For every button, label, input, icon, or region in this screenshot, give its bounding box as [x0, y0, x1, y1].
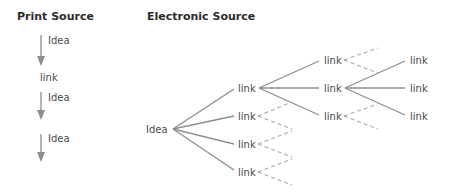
tree-root-idea: Idea — [146, 124, 168, 135]
arrow-down-icon — [37, 56, 45, 66]
arrow-down-icon — [37, 152, 45, 162]
dashed-branch — [344, 60, 378, 73]
print-idea-1: Idea — [48, 35, 70, 46]
tree-link-l1-4: link — [238, 167, 256, 178]
diagram-canvas: Idea link Idea Idea Idea link link link … — [0, 0, 449, 196]
edge-root-l1d — [173, 129, 234, 170]
tree-link-l3-2: link — [410, 83, 428, 94]
print-idea-3: Idea — [48, 133, 70, 144]
dashed-branch — [344, 116, 378, 129]
dashed-branch — [344, 104, 378, 116]
electronic-source-tree: Idea link link link link link link link — [146, 48, 428, 185]
tree-link-l3-3: link — [410, 111, 428, 122]
tree-link-l1-3: link — [238, 139, 256, 150]
edge-l2b-l3a — [345, 61, 405, 88]
edge-root-l1c — [173, 129, 234, 144]
dashed-branch — [258, 116, 292, 129]
dashed-branch — [258, 131, 292, 144]
arrow-down-icon — [37, 110, 45, 120]
dashed-branch — [258, 159, 292, 172]
dashed-branch — [258, 102, 292, 116]
edge-l1a-l2c — [259, 88, 319, 115]
tree-link-l2-2: link — [324, 83, 342, 94]
print-link: link — [40, 72, 58, 83]
edge-l2b-l3c — [345, 88, 405, 115]
print-idea-2: Idea — [48, 92, 70, 103]
dashed-branch — [258, 144, 292, 157]
edge-l1a-l2a — [259, 61, 319, 88]
tree-link-l1-2: link — [238, 111, 256, 122]
print-source-flow: Idea link Idea Idea — [37, 35, 70, 162]
tree-link-l1-1: link — [238, 83, 256, 94]
tree-link-l2-3: link — [324, 111, 342, 122]
dashed-branch — [344, 48, 378, 60]
tree-link-l3-1: link — [410, 55, 428, 66]
dashed-branch — [258, 172, 292, 185]
tree-link-l2-1: link — [324, 55, 342, 66]
